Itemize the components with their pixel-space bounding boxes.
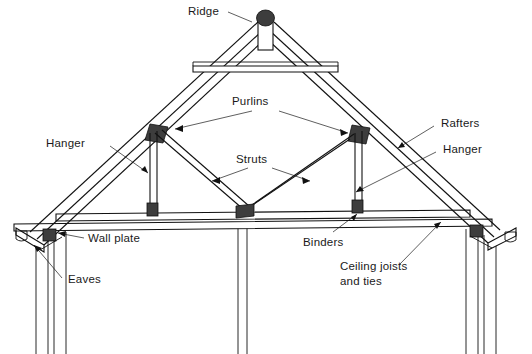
centre-partition-wall — [238, 222, 247, 354]
roof-truss-diagram: Ridge Purlins Rafters Hanger Struts Hang… — [0, 0, 532, 354]
label-purlins: Purlins — [232, 95, 269, 107]
label-ceiling-joists-line2: and ties — [340, 275, 382, 287]
label-rafters: Rafters — [441, 117, 480, 129]
ridge — [257, 10, 275, 50]
structure-group — [14, 10, 516, 354]
centre-joint-block — [236, 204, 254, 218]
collar-tie — [193, 62, 338, 72]
wall-plate-right — [470, 225, 483, 237]
truss-drawing: Ridge Purlins Rafters Hanger Struts Hang… — [0, 0, 532, 354]
label-wall-plate: Wall plate — [88, 232, 140, 244]
rafter-right — [268, 22, 500, 243]
label-binders: Binders — [303, 236, 343, 248]
label-eaves: Eaves — [68, 273, 101, 285]
label-hanger-right: Hanger — [443, 143, 482, 155]
label-ceiling-joists-line1: Ceiling joists — [340, 260, 407, 272]
strut-right — [244, 134, 354, 211]
label-ridge: Ridge — [188, 5, 219, 17]
purlin-block-right — [348, 125, 370, 144]
wall-plate-left — [43, 229, 56, 241]
label-hanger-left: Hanger — [46, 137, 85, 149]
label-struts: Struts — [236, 153, 267, 165]
strut-left — [155, 130, 249, 209]
